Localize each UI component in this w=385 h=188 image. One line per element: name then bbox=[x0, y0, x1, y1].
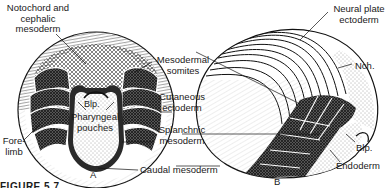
label-pharyngeal-pouches: Pharyngeal pouches bbox=[66, 112, 124, 133]
figure-caption: FIGURE 5.7 bbox=[0, 181, 59, 188]
label-blastopore-b: Blp. bbox=[356, 143, 372, 154]
label-neural-line1: Neural plate bbox=[330, 4, 385, 15]
label-mesodermal-line1: Mesodermal bbox=[152, 55, 214, 66]
label-neural-plate-ectoderm: Neural plate ectoderm bbox=[330, 4, 385, 25]
label-blastopore-a: Blp. bbox=[84, 99, 100, 110]
label-forelimb-line2: limb bbox=[1, 147, 27, 158]
label-neural-line2: ectoderm bbox=[330, 15, 385, 26]
label-splanchnic-mesoderm: Splanchnic mesoderm bbox=[152, 125, 212, 146]
label-notochord-cephalic-mesoderm: Notochord and cephalic mesoderm bbox=[2, 3, 74, 35]
label-cutaneous-line2: ectoderm bbox=[154, 103, 210, 114]
label-mesodermal-line2: somites bbox=[152, 66, 214, 77]
label-caudal-mesoderm: Caudal mesoderm bbox=[140, 165, 218, 176]
label-cutaneous-line1: Cutaneous bbox=[154, 92, 210, 103]
label-forelimb-line1: Fore- bbox=[1, 136, 27, 147]
label-pharyngeal-line2: pouches bbox=[66, 123, 124, 134]
panel-label-b: B bbox=[274, 177, 280, 188]
label-notochord-line3: mesoderm bbox=[2, 24, 74, 35]
label-endoderm: Endoderm bbox=[336, 161, 380, 172]
label-pharyngeal-line1: Pharyngeal bbox=[66, 112, 124, 123]
label-forelimb: Fore- limb bbox=[1, 136, 27, 157]
panel-label-a: A bbox=[90, 170, 96, 181]
label-splanchnic-line1: Splanchnic bbox=[152, 125, 212, 136]
label-splanchnic-line2: mesoderm bbox=[152, 136, 212, 147]
label-notochord-line1: Notochord and bbox=[2, 3, 74, 14]
label-mesodermal-somites: Mesodermal somites bbox=[152, 55, 214, 76]
label-cutaneous-ectoderm: Cutaneous ectoderm bbox=[154, 92, 210, 113]
label-notochord-nch: Nch. bbox=[355, 61, 375, 72]
